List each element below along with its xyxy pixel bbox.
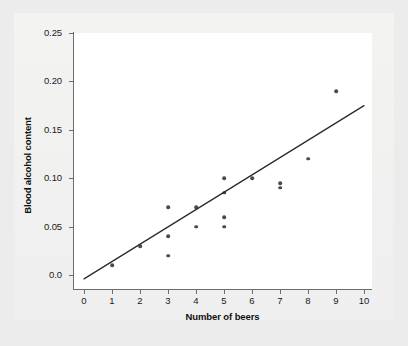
y-tick-mark (69, 81, 73, 82)
x-tick-label: 2 (130, 295, 150, 306)
x-tick-mark (252, 290, 253, 294)
x-tick-label: 3 (158, 295, 178, 306)
y-tick-mark (69, 33, 73, 34)
x-tick-mark (336, 290, 337, 294)
data-point (278, 181, 282, 185)
x-tick-mark (308, 290, 309, 294)
x-tick-mark (280, 290, 281, 294)
x-axis-line (73, 289, 372, 290)
x-tick-label: 9 (326, 295, 346, 306)
y-tick-label: 0.0 (26, 269, 62, 280)
x-tick-label: 1 (102, 295, 122, 306)
x-tick-mark (140, 290, 141, 294)
data-point (222, 225, 226, 229)
x-tick-label: 5 (214, 295, 234, 306)
data-point (194, 205, 198, 209)
x-tick-mark (224, 290, 225, 294)
data-point (278, 186, 282, 190)
x-tick-mark (364, 290, 365, 294)
plot-area (74, 33, 372, 289)
x-tick-label: 6 (242, 295, 262, 306)
data-point (166, 234, 170, 238)
y-tick-mark (69, 178, 73, 179)
x-tick-mark (112, 290, 113, 294)
data-point (306, 157, 310, 161)
data-point (166, 254, 170, 258)
x-tick-label: 0 (74, 295, 94, 306)
x-tick-label: 4 (186, 295, 206, 306)
data-point (138, 244, 142, 248)
y-tick-mark (69, 227, 73, 228)
data-point (222, 191, 226, 195)
x-axis-title: Number of beers (73, 311, 372, 322)
x-tick-label: 8 (298, 295, 318, 306)
data-point (334, 89, 338, 93)
x-tick-mark (168, 290, 169, 294)
y-tick-mark (69, 130, 73, 131)
data-point (222, 176, 226, 180)
x-tick-label: 10 (354, 295, 374, 306)
x-tick-label: 7 (270, 295, 290, 306)
data-point (110, 264, 114, 268)
y-axis-title: Blood alcohol content (22, 76, 33, 256)
chart-figure: 0.00.050.100.150.200.25 012345678910 Blo… (0, 0, 408, 346)
y-tick-mark (69, 275, 73, 276)
data-point (166, 205, 170, 209)
y-axis-line (73, 32, 74, 290)
x-tick-mark (84, 290, 85, 294)
y-tick-label: 0.25 (26, 27, 62, 38)
x-tick-mark (196, 290, 197, 294)
data-point (222, 215, 226, 219)
data-point (250, 176, 254, 180)
data-point (194, 225, 198, 229)
